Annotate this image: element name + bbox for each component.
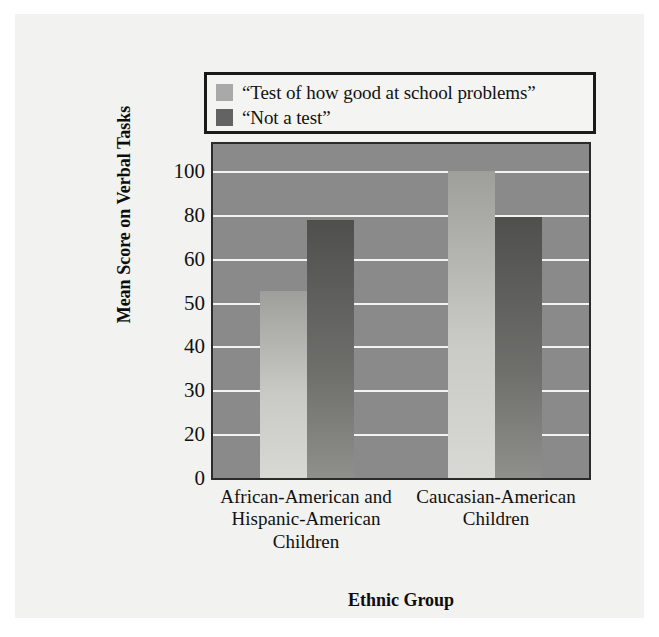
y-axis-tick-label: 0: [141, 468, 205, 489]
x-axis-category-label: Caucasian-AmericanChildren: [401, 486, 591, 553]
legend-item-test: “Test of how good at school problems”: [216, 80, 593, 105]
legend-swatch-light: [216, 84, 233, 101]
x-axis-category-label-line: Children: [211, 531, 401, 553]
figure-panel: “Test of how good at school problems” “N…: [15, 14, 644, 618]
y-axis-tick-label: 50: [141, 292, 205, 313]
bar: [260, 291, 307, 478]
x-axis-category-label-line: Hispanic-American: [211, 508, 401, 530]
x-axis-category-labels: African-American andHispanic-AmericanChi…: [211, 486, 591, 553]
bar-group: [401, 144, 589, 478]
y-axis-tick-label: 60: [141, 248, 205, 269]
chart-legend: “Test of how good at school problems” “N…: [204, 72, 596, 134]
x-axis-category-label-line: African-American and: [211, 486, 401, 508]
x-axis-title: Ethnic Group: [211, 590, 591, 611]
legend-swatch-dark: [216, 109, 233, 126]
legend-item-not-test: “Not a test”: [216, 105, 593, 130]
y-axis-tick-label: 30: [141, 380, 205, 401]
y-axis-tick-label: 40: [141, 336, 205, 357]
legend-label-light: “Test of how good at school problems”: [242, 83, 536, 102]
y-axis-title: Mean Score on Verbal Tasks: [114, 100, 135, 330]
x-axis-category-label: African-American andHispanic-AmericanChi…: [211, 486, 401, 553]
x-axis-category-label-line: Caucasian-American: [401, 486, 591, 508]
y-axis-tick-label: 20: [141, 424, 205, 445]
bar: [307, 220, 354, 478]
y-axis-tick-label: 80: [141, 204, 205, 225]
bar-groups: [213, 144, 589, 478]
bar: [495, 217, 542, 478]
bar: [448, 171, 495, 478]
x-axis-category-label-line: Children: [401, 508, 591, 530]
y-axis-tick-label: 100: [141, 161, 205, 182]
y-axis-tick-labels: 1008060504030200: [141, 142, 205, 480]
legend-label-dark: “Not a test”: [242, 108, 330, 127]
plot-area: [211, 142, 591, 480]
bar-group: [213, 144, 401, 478]
